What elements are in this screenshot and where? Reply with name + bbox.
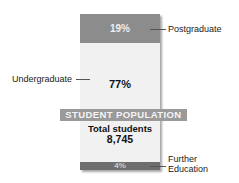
undergraduate-leader-line	[76, 79, 90, 80]
chart-title-banner: STUDENT POPULATION	[60, 109, 187, 121]
postgraduate-label: Postgraduate	[168, 24, 222, 34]
total-students: Total students 8,745	[80, 123, 160, 145]
postgraduate-leader-line	[150, 29, 166, 30]
further-education-label: Further Education	[168, 154, 208, 174]
postgraduate-segment: 19%	[80, 14, 160, 43]
further-education-label-line1: Further	[168, 154, 208, 164]
further-education-label-line2: Education	[168, 164, 208, 174]
further-education-segment: 4%	[80, 162, 160, 170]
undergraduate-value: 77%	[80, 78, 160, 90]
stacked-bar: 19% 77% 4%	[80, 14, 160, 170]
further-education-leader-line	[150, 166, 166, 167]
total-students-value: 8,745	[80, 134, 160, 145]
undergraduate-label: Undergraduate	[12, 74, 72, 84]
further-education-value: 4%	[114, 161, 126, 170]
postgraduate-value: 19%	[110, 23, 130, 34]
